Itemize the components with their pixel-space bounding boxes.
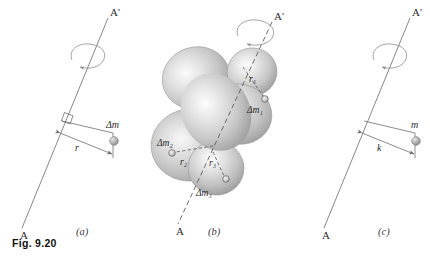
figure-caption: Fig. 9.20 <box>12 237 57 249</box>
distance-label-r3: r₃ <box>209 158 216 168</box>
distance-label-k: k <box>377 142 382 153</box>
mass-particle-delta-m <box>110 137 119 146</box>
distance-label-r1: r₁ <box>249 74 256 84</box>
axis-bottom-label-b: A <box>176 225 184 237</box>
rotation-arrow-icon-c <box>373 44 407 68</box>
axis-bottom-label-c: A <box>322 229 330 241</box>
mass-particle-delta-m1 <box>262 96 269 103</box>
mass-particle-delta-m3 <box>223 176 230 183</box>
axis-top-label-b: A' <box>274 10 284 22</box>
rotation-axis-line-c <box>324 18 410 228</box>
distance-arrow-r <box>60 133 112 154</box>
mass-label-m: m <box>411 119 418 130</box>
mass-particle-delta-m2 <box>169 150 176 157</box>
mass-label-delta-m1: Δm₁ <box>246 105 263 115</box>
distance-label-r: r <box>75 142 79 153</box>
distance-arrow-k <box>362 133 414 154</box>
figure-container: A' A r Δm (a) <box>0 0 430 263</box>
panel-c: A' A k m (c) <box>322 6 422 241</box>
rotation-arrow-icon-a <box>71 44 105 68</box>
axis-top-label-a: A' <box>110 6 120 18</box>
distance-label-r2: r₂ <box>180 157 188 167</box>
mass-particle-m <box>412 137 421 146</box>
axis-top-label-c: A' <box>412 6 422 18</box>
rigid-body-shape <box>146 38 281 199</box>
panel-b: A' A r₁ Δm₁ r₂ Δm₂ r₃ Δm₃ (b) <box>146 10 284 238</box>
panel-a: A' A r Δm (a) <box>20 6 120 241</box>
mass-label-delta-m: Δm <box>105 119 119 130</box>
mass-label-delta-m2: Δm₂ <box>156 138 173 148</box>
panel-letter-c: (c) <box>378 226 390 238</box>
upper-guide-c <box>364 121 415 133</box>
mass-label-delta-m3: Δm₃ <box>195 188 212 198</box>
panel-letter-b: (b) <box>208 226 221 238</box>
rotation-arrow-icon-b <box>237 20 274 45</box>
rotation-axis-line-a <box>22 18 108 228</box>
figure-canvas: A' A r Δm (a) <box>0 0 430 263</box>
panel-letter-a: (a) <box>76 226 89 238</box>
